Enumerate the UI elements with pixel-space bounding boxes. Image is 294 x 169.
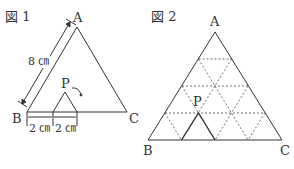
fig1-label-b: B bbox=[12, 112, 22, 125]
figure2-title: 図 2 bbox=[151, 10, 176, 23]
fig2-label-p: P bbox=[193, 95, 202, 108]
fig2-label-b: B bbox=[143, 144, 153, 157]
fig1-dim2: 2 ㎝ bbox=[55, 122, 77, 135]
rotation-arrow-icon bbox=[72, 88, 81, 94]
fig1-label-a: A bbox=[73, 11, 82, 24]
fig1-dim1: 2 ㎝ bbox=[29, 122, 51, 135]
triangle-p-fig2 bbox=[182, 113, 216, 140]
figure1-title: 図 1 bbox=[5, 10, 30, 23]
fig2-label-a: A bbox=[210, 15, 219, 28]
triangle-p-fig1 bbox=[53, 92, 77, 112]
fig1-label-p: P bbox=[61, 77, 70, 90]
fig1-side-length: 8 ㎝ bbox=[28, 55, 50, 68]
fig2-label-c: C bbox=[280, 144, 290, 157]
figure1-drawing bbox=[18, 19, 127, 126]
fig1-label-c: C bbox=[129, 112, 139, 125]
figure2-drawing bbox=[148, 32, 282, 140]
